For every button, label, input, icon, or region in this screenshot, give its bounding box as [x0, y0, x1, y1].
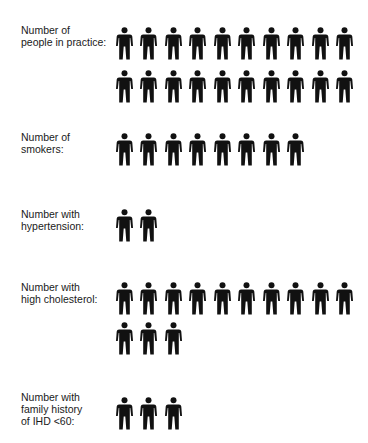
person-icon — [259, 27, 284, 61]
person-icon — [186, 282, 211, 316]
person-icon — [161, 27, 186, 61]
person-icon — [137, 322, 162, 356]
pictogram-row — [112, 70, 357, 104]
person-icon — [137, 133, 162, 167]
person-icon — [259, 133, 284, 167]
person-icon — [333, 70, 358, 104]
person-icon — [284, 70, 309, 104]
pictogram-row — [112, 27, 357, 61]
person-icon — [137, 282, 162, 316]
person-icon — [112, 133, 137, 167]
person-icon — [235, 27, 260, 61]
person-icon — [137, 27, 162, 61]
person-icon — [235, 70, 260, 104]
person-icon — [161, 322, 186, 356]
person-icon — [333, 282, 358, 316]
person-icon — [235, 282, 260, 316]
label-family-history: Number with family history of IHD <60: — [21, 391, 82, 427]
person-icon — [112, 27, 137, 61]
person-icon — [186, 133, 211, 167]
person-icon — [161, 133, 186, 167]
person-icon — [161, 397, 186, 431]
person-icon — [308, 282, 333, 316]
label-smokers: Number of smokers: — [21, 131, 70, 155]
person-icon — [235, 133, 260, 167]
pictogram-row — [112, 209, 161, 243]
label-hypertension: Number with hypertension: — [21, 208, 84, 232]
person-icon — [137, 209, 162, 243]
person-icon — [333, 27, 358, 61]
person-icon — [210, 133, 235, 167]
person-icon — [259, 282, 284, 316]
pictogram-row — [112, 322, 186, 356]
pictogram-row — [112, 397, 186, 431]
person-icon — [137, 70, 162, 104]
person-icon — [161, 70, 186, 104]
label-people: Number of people in practice: — [21, 24, 106, 48]
person-icon — [210, 282, 235, 316]
person-icon — [284, 282, 309, 316]
person-icon — [308, 27, 333, 61]
person-icon — [112, 70, 137, 104]
person-icon — [161, 282, 186, 316]
person-icon — [112, 322, 137, 356]
person-icon — [259, 70, 284, 104]
pictogram-row — [112, 282, 357, 316]
person-icon — [137, 397, 162, 431]
person-icon — [210, 27, 235, 61]
person-icon — [186, 70, 211, 104]
person-icon — [284, 133, 309, 167]
person-icon — [112, 209, 137, 243]
person-icon — [186, 27, 211, 61]
label-cholesterol: Number with high cholesterol: — [21, 281, 97, 305]
person-icon — [112, 397, 137, 431]
person-icon — [308, 70, 333, 104]
person-icon — [210, 70, 235, 104]
person-icon — [112, 282, 137, 316]
person-icon — [284, 27, 309, 61]
pictogram-row — [112, 133, 308, 167]
